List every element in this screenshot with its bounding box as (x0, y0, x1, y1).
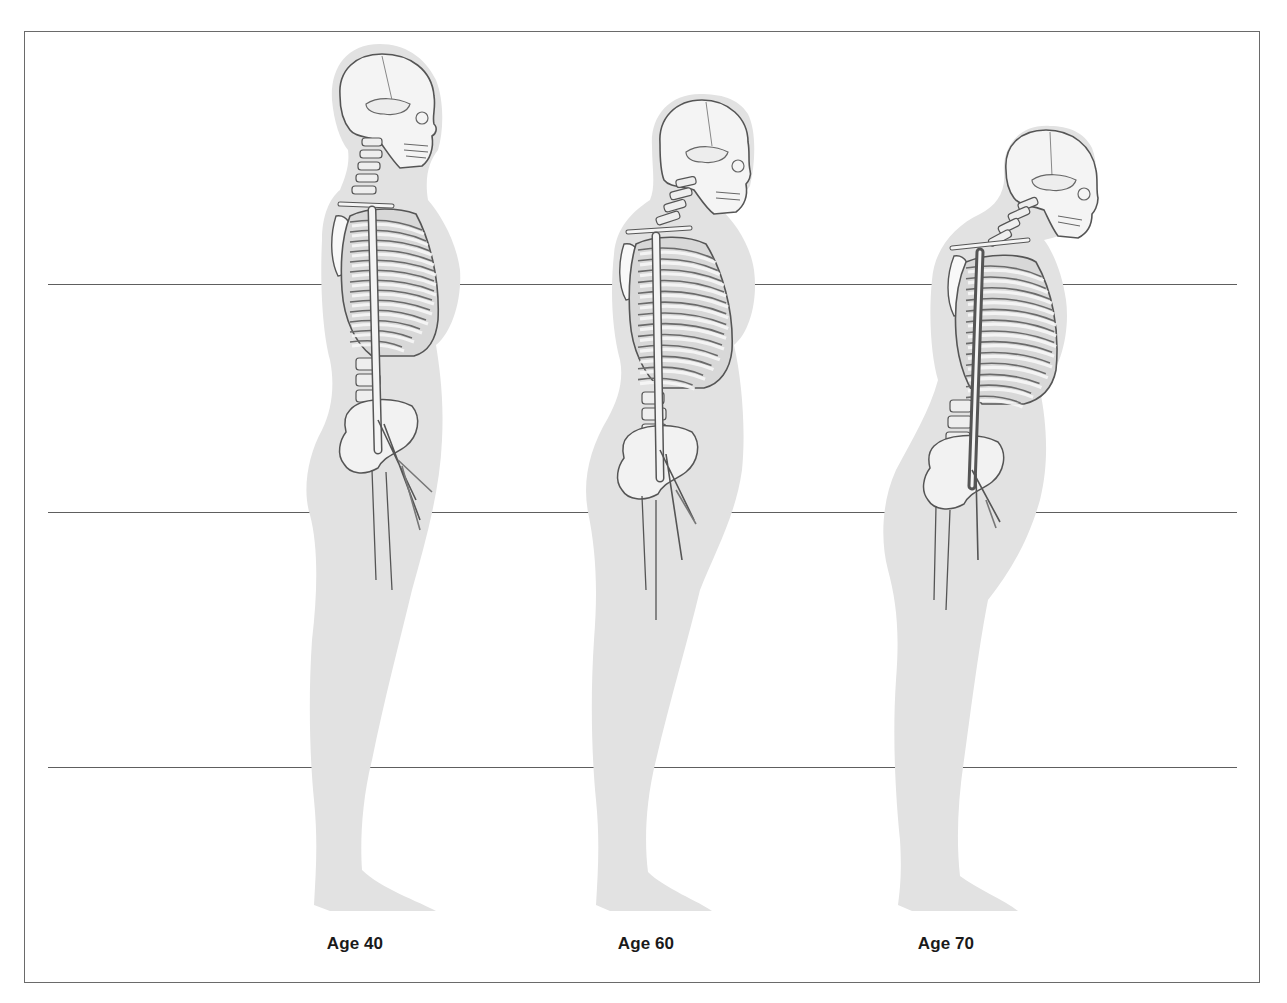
figure-label-age-60: Age 60 (618, 934, 674, 954)
figure-age-60 (586, 94, 755, 911)
figure-age-40 (306, 44, 460, 911)
body-silhouette (306, 44, 460, 911)
figure-label-age-70: Age 70 (918, 934, 974, 954)
figures-canvas (0, 0, 1287, 1003)
figure-age-70 (883, 126, 1098, 911)
figure-label-age-40: Age 40 (327, 934, 383, 954)
